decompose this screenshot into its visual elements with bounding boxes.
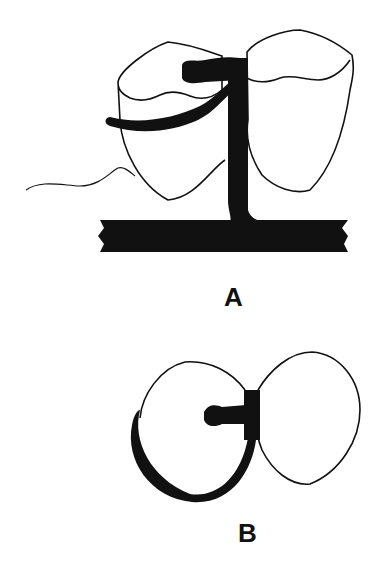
diagram-panel-b [0, 0, 381, 563]
retainer-head-occlusal [204, 405, 246, 426]
retainer-post-occlusal [244, 390, 260, 440]
panel-label-b: B [238, 518, 257, 549]
right-tooth-occlusal [257, 352, 360, 484]
